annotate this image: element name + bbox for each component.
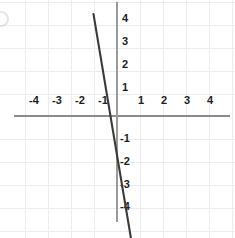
line-series-path bbox=[94, 14, 132, 238]
plotted-line-layer bbox=[0, 0, 235, 238]
coordinate-plane-graph: -4 -3 -2 -1 1 2 3 4 4 3 2 1 -1 -2 -3 -4 bbox=[0, 0, 235, 238]
